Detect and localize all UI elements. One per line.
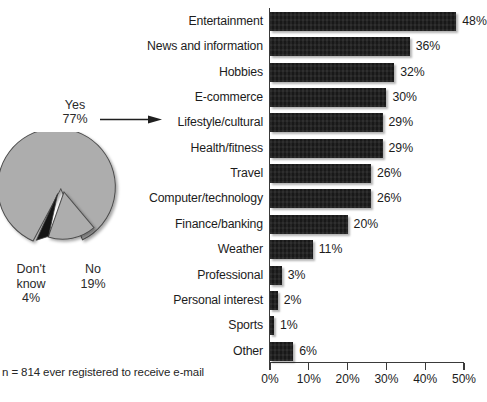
bar-fill [270,63,394,82]
x-axis-tick [347,363,348,370]
bar-category-label: Computer/technology [149,190,263,207]
bar-track [270,88,386,107]
bar-fill [270,139,383,158]
bar-fill [270,113,383,132]
bar-track [270,164,371,183]
bar-row: E-commerce30% [0,88,486,107]
bar-value-label: 6% [299,343,317,360]
bar-fill [270,215,348,234]
bar-row: Travel26% [0,164,486,183]
x-axis-tick [463,363,464,370]
bar-category-label: News and information [147,38,263,55]
bar-row: Hobbies32% [0,63,486,82]
bar-row: Weather11% [0,240,486,259]
bar-fill [270,37,410,56]
bar-value-label: 29% [389,114,414,131]
bar-value-label: 26% [377,165,402,182]
x-axis-tick-label: 10% [289,372,329,386]
bar-row: Personal interest2% [0,291,486,310]
bar-row: Other6% [0,342,486,361]
x-axis-tick [386,363,387,370]
bar-category-label: Weather [218,241,263,258]
bar-row: Sports1% [0,316,486,335]
bar-category-label: Lifestyle/cultural [178,114,263,131]
bar-value-label: 26% [377,190,402,207]
x-axis-tick [269,363,270,370]
bar-value-label: 20% [354,216,379,233]
bar-value-label: 32% [400,64,425,81]
bar-category-label: Travel [230,165,263,182]
bar-track [270,316,274,335]
bar-value-label: 1% [280,317,298,334]
bar-fill [270,291,278,310]
x-axis-line [269,362,464,363]
bar-track [270,240,313,259]
bar-value-label: 48% [462,13,487,30]
bar-row: Finance/banking20% [0,215,486,234]
x-axis-tick [425,363,426,370]
bar-track [270,63,394,82]
bar-track [270,12,456,31]
bar-fill [270,189,371,208]
x-axis-tick [308,363,309,370]
bar-track [270,37,410,56]
bar-category-label: E-commerce [195,89,263,106]
bar-track [270,342,293,361]
bar-track [270,215,348,234]
bar-row: Health/fitness29% [0,139,486,158]
bar-category-label: Personal interest [173,292,263,309]
bar-fill [270,164,371,183]
bar-value-label: 30% [392,89,417,106]
bar-category-label: Hobbies [219,64,263,81]
x-axis-tick-label: 30% [366,372,406,386]
x-axis-tick-label: 20% [328,372,368,386]
bar-value-label: 3% [288,267,306,284]
bar-category-label: Sports [228,317,263,334]
bar-category-label: Professional [197,267,263,284]
bar-fill [270,12,456,31]
bar-row: News and information36% [0,37,486,56]
bar-fill [270,240,313,259]
bar-category-label: Health/fitness [191,140,263,157]
bar-value-label: 36% [416,38,441,55]
bar-track [270,113,383,132]
bar-row: Lifestyle/cultural29% [0,113,486,132]
bar-fill [270,266,282,285]
bar-category-label: Finance/banking [175,216,263,233]
bar-fill [270,88,386,107]
bar-row: Professional3% [0,266,486,285]
bar-fill [270,316,274,335]
bar-fill [270,342,293,361]
bar-category-label: Entertainment [188,13,263,30]
x-axis-tick-label: 0% [250,372,290,386]
bar-value-label: 29% [389,140,414,157]
bar-value-label: 2% [284,292,302,309]
bar-value-label: 11% [319,241,343,258]
bar-category-label: Other [233,343,263,360]
x-axis-tick-label: 40% [405,372,445,386]
bar-track [270,291,278,310]
bar-track [270,266,282,285]
bar-row: Computer/technology26% [0,189,486,208]
x-axis-tick-label: 50% [444,372,484,386]
bar-track [270,189,371,208]
bar-track [270,139,383,158]
bar-row: Entertainment48% [0,12,486,31]
